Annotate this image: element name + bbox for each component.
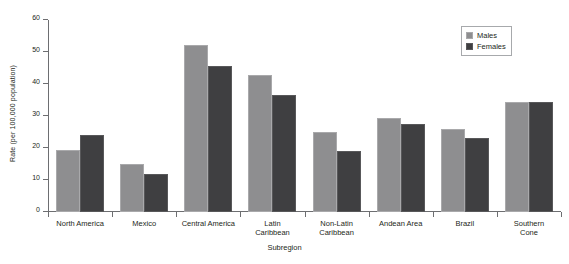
x-category-label-line: Cone <box>497 228 561 237</box>
x-tick <box>369 212 370 217</box>
x-category-label-line: Central America <box>176 219 240 228</box>
bar-females <box>337 151 361 212</box>
y-tick-label: 20 <box>32 142 40 149</box>
bar-females <box>208 66 232 212</box>
x-category-label: Non-LatinCaribbean <box>305 219 369 237</box>
x-tick <box>561 212 562 217</box>
x-category-label-line: Caribbean <box>305 228 369 237</box>
y-axis-title: Rate (per 100,000 population) <box>9 39 16 189</box>
males-swatch-icon <box>466 32 473 39</box>
x-category-label: North America <box>48 219 112 228</box>
x-axis-title: Subregion <box>0 243 569 252</box>
x-category-label: Central America <box>176 219 240 228</box>
x-category-label-line: North America <box>48 219 112 228</box>
x-tick <box>433 212 434 217</box>
bar-males <box>184 45 208 212</box>
x-tick <box>48 212 49 217</box>
y-tick: 20 <box>43 147 48 148</box>
bar-females <box>465 138 489 212</box>
x-category-label-line: Southern <box>497 219 561 228</box>
bar-males <box>505 102 529 212</box>
y-tick: 30 <box>43 115 48 116</box>
bar-males <box>56 150 80 212</box>
x-category-label: Brazil <box>433 219 497 228</box>
females-swatch-icon <box>466 43 473 50</box>
x-category-label-line: Andean Area <box>369 219 433 228</box>
x-tick <box>176 212 177 217</box>
x-tick <box>112 212 113 217</box>
chart-legend: Males Females <box>461 26 512 56</box>
legend-label-females: Females <box>477 42 506 51</box>
x-tick <box>240 212 241 217</box>
bar-males <box>120 164 144 212</box>
x-category-label: Mexico <box>112 219 176 228</box>
y-tick: 40 <box>43 83 48 84</box>
bar-females <box>401 124 425 212</box>
y-tick: 10 <box>43 179 48 180</box>
y-tick-label: 60 <box>32 14 40 21</box>
y-tick-label: 30 <box>32 110 40 117</box>
x-tick <box>497 212 498 217</box>
bar-males <box>248 75 272 212</box>
x-category-label-line: Non-Latin <box>305 219 369 228</box>
bar-males <box>377 118 401 212</box>
grouped-bar-chart: Rate (per 100,000 population) 0102030405… <box>0 0 569 264</box>
x-category-label-line: Brazil <box>433 219 497 228</box>
bar-females <box>272 95 296 212</box>
legend-item-females: Females <box>466 41 506 52</box>
y-tick-label: 10 <box>32 174 40 181</box>
x-tick <box>305 212 306 217</box>
x-category-label-line: Caribbean <box>240 228 304 237</box>
legend-item-males: Males <box>466 30 506 41</box>
y-tick: 60 <box>43 19 48 20</box>
bar-females <box>80 135 104 212</box>
bar-males <box>313 132 337 212</box>
x-category-label-line: Mexico <box>112 219 176 228</box>
x-category-label: Andean Area <box>369 219 433 228</box>
bar-females <box>144 174 168 212</box>
x-category-label-line: Latin <box>240 219 304 228</box>
y-tick-label: 0 <box>36 206 40 213</box>
x-category-label: LatinCaribbean <box>240 219 304 237</box>
bar-males <box>441 129 465 212</box>
legend-label-males: Males <box>477 31 497 40</box>
x-category-label: SouthernCone <box>497 219 561 237</box>
y-axis-line <box>48 20 49 212</box>
y-tick: 50 <box>43 51 48 52</box>
y-tick-label: 50 <box>32 46 40 53</box>
y-tick-label: 40 <box>32 78 40 85</box>
bar-females <box>529 102 553 212</box>
